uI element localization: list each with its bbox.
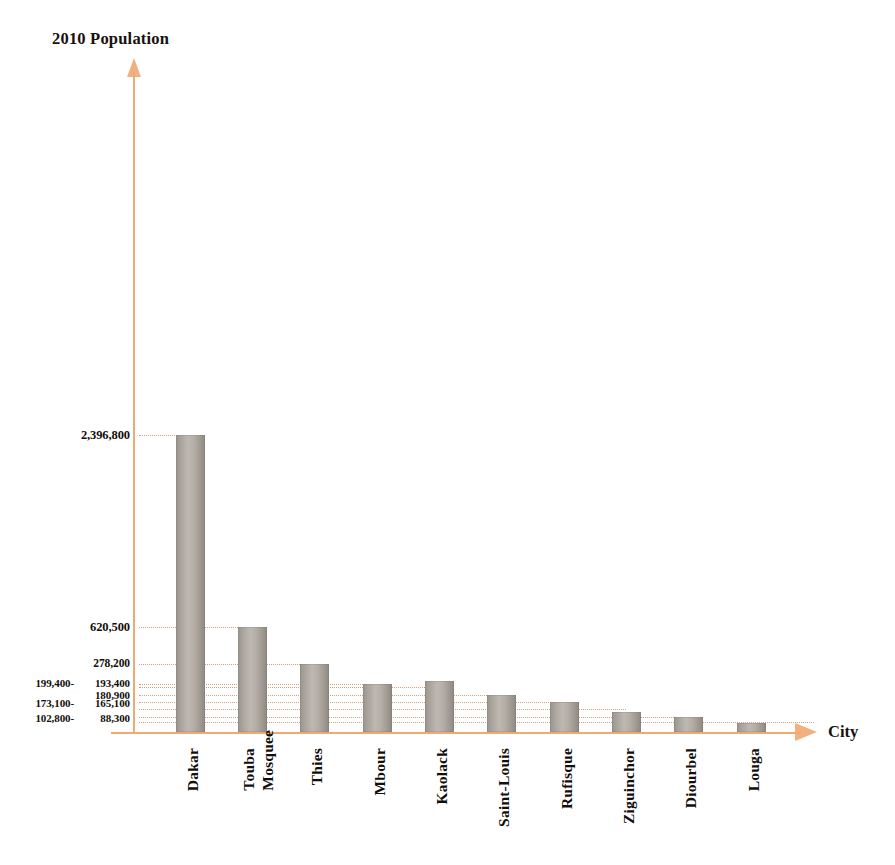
category-label-thies-line1: Thies xyxy=(308,748,325,785)
value-label-dakar: 2,396,800 xyxy=(58,428,130,443)
category-label-louga-line1: Louga xyxy=(745,748,762,791)
bar-saintlouis xyxy=(487,695,516,732)
bar-rufisque xyxy=(550,702,579,732)
value-label-louga: 88,300 xyxy=(76,712,130,724)
value-label-kaolack: 193,400 xyxy=(76,677,130,689)
x-axis-arrow-icon xyxy=(795,723,817,741)
bar-thies xyxy=(300,664,329,732)
category-label-kaolack: Kaolack xyxy=(433,748,451,805)
category-label-thies: Thies xyxy=(308,748,326,785)
category-label-diourbel: Diourbel xyxy=(682,748,700,808)
value-label-diourbel: 102,800- xyxy=(12,712,74,724)
x-axis-title: City xyxy=(828,722,858,742)
bar-mbour xyxy=(363,684,392,732)
y-axis-line xyxy=(133,72,135,734)
value-label-mbour: 199,400- xyxy=(12,677,74,689)
bar-touba xyxy=(238,627,267,732)
bar-diourbel xyxy=(674,717,703,732)
category-label-touba-line1: Touba xyxy=(240,748,257,791)
bar-kaolack xyxy=(425,681,454,732)
category-label-saintlouis: Saint-Louis xyxy=(495,748,513,827)
category-label-rufisque-line1: Rufisque xyxy=(558,748,575,809)
category-label-ziguinchor-line1: Ziguinchor xyxy=(620,748,637,824)
bar-dakar xyxy=(176,435,205,732)
value-label-thies: 278,200 xyxy=(58,657,130,669)
category-label-dakar-line1: Dakar xyxy=(184,748,201,791)
category-label-touba-line2: Mosquee xyxy=(259,730,277,791)
leader-line-thies xyxy=(139,664,314,665)
y-axis-title: 2010 Population xyxy=(52,29,169,49)
category-label-ziguinchor: Ziguinchor xyxy=(620,748,638,824)
category-label-diourbel-line1: Diourbel xyxy=(682,748,699,808)
bar-chart: 2010 Population City 2,396,800 620,500 2… xyxy=(0,0,895,865)
bar-louga xyxy=(737,723,766,732)
value-label-touba: 620,500 xyxy=(58,620,130,635)
category-label-kaolack-line1: Kaolack xyxy=(433,748,450,805)
value-label-rufisque: 173,100- xyxy=(12,697,74,709)
category-label-dakar: Dakar xyxy=(184,748,202,791)
category-label-mbour-line1: Mbour xyxy=(371,748,388,796)
category-label-louga: Louga xyxy=(745,748,763,791)
value-label-ziguinchor: 165,100 xyxy=(76,697,130,709)
category-label-mbour: Mbour xyxy=(371,748,389,796)
category-label-rufisque: Rufisque xyxy=(558,748,576,809)
bar-ziguinchor xyxy=(612,712,641,732)
category-label-saintlouis-line1: Saint-Louis xyxy=(495,748,512,827)
x-axis-line xyxy=(111,732,801,734)
leader-line-diourbel xyxy=(139,717,688,718)
category-label-touba: Touba Mosquee xyxy=(240,748,258,791)
